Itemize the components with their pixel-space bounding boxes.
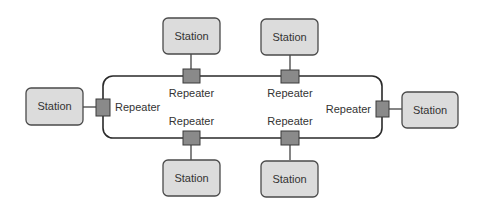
repeater-label: Repeater (267, 87, 313, 99)
repeater-left: Repeater (96, 99, 161, 116)
repeater-label: Repeater (326, 103, 372, 115)
repeater-label: Repeater (169, 87, 215, 99)
repeater-top-right: Repeater (267, 70, 313, 99)
station-right: Station (402, 92, 458, 128)
repeater-top-left: Repeater (169, 69, 215, 99)
station-label: Station (174, 172, 208, 184)
repeater-bottom-left: Repeater (169, 115, 215, 145)
station-label: Station (413, 104, 447, 116)
station-left: Station (26, 88, 83, 125)
station-label: Station (174, 30, 208, 42)
repeater-bottom-right: Repeater (267, 115, 313, 145)
station-top-left: Station (163, 18, 220, 54)
repeater-right: Repeater (326, 101, 389, 117)
station-label: Station (272, 31, 306, 43)
station-bottom-right: Station (261, 161, 318, 197)
repeater-label: Repeater (267, 115, 313, 127)
station-label: Station (272, 173, 306, 185)
station-bottom-left: Station (163, 160, 220, 196)
station-top-right: Station (261, 19, 318, 55)
repeater-label: Repeater (115, 101, 161, 113)
station-label: Station (37, 100, 71, 112)
repeater-label: Repeater (169, 115, 215, 127)
ring-network-diagram: Station Station Station Station Station … (0, 0, 484, 210)
